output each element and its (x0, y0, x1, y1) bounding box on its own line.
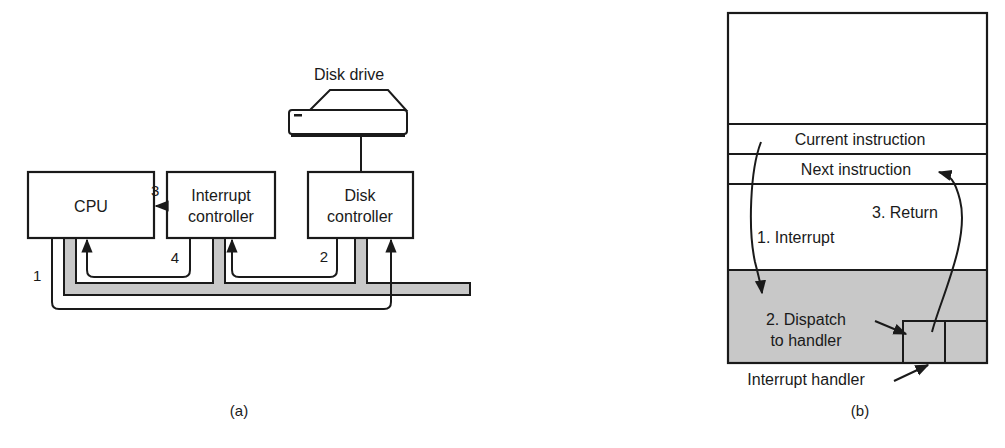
step-2-dispatch-line2: to handler (770, 332, 842, 349)
disk-drive-label: Disk drive (314, 66, 384, 83)
system-bus (64, 238, 470, 295)
disk-controller-box: Disk controller (308, 172, 413, 238)
step-3-label: 3 (151, 182, 159, 199)
interrupt-handler-pointer (894, 365, 928, 381)
disk-drive-icon: Disk drive (289, 66, 407, 172)
cpu-box: CPU (28, 172, 154, 238)
step-2-dispatch-line1: 2. Dispatch (766, 311, 846, 328)
figure-b: Current instruction Next instruction 1. … (728, 13, 987, 419)
current-instruction-label: Current instruction (795, 131, 926, 148)
step-2-label: 2 (320, 248, 328, 265)
disk-controller-label-line1: Disk (344, 187, 376, 204)
arrow-step-2: 2 (232, 238, 337, 277)
interrupt-controller-label-line2: controller (188, 208, 254, 225)
interrupt-controller-label-line1: Interrupt (191, 187, 251, 204)
step-1-interrupt-label: 1. Interrupt (757, 229, 835, 246)
interrupt-handler-block (903, 321, 945, 363)
cpu-label: CPU (74, 198, 108, 215)
interrupt-handler-label: Interrupt handler (747, 371, 865, 388)
disk-controller-label-line2: controller (327, 208, 393, 225)
step-1-label: 1 (33, 267, 41, 284)
step-3-return-label: 3. Return (872, 204, 938, 221)
figure-a-caption: (a) (230, 402, 248, 419)
figure-a: CPU Interrupt controller Disk controller… (28, 66, 470, 419)
interrupt-controller-box: Interrupt controller (167, 172, 275, 238)
next-instruction-label: Next instruction (801, 161, 911, 178)
arrow-step-4: 4 (87, 238, 190, 277)
figure-b-caption: (b) (851, 402, 869, 419)
diagram-canvas: CPU Interrupt controller Disk controller… (0, 0, 1005, 448)
step-4-label: 4 (171, 249, 179, 266)
